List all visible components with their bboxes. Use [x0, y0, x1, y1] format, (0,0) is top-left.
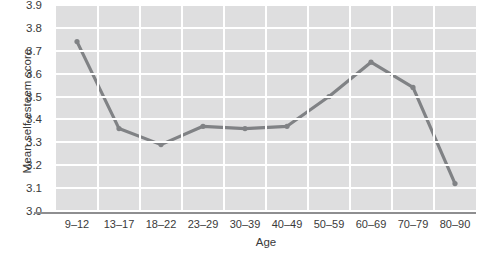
y-tick-label: 3.0: [26, 205, 54, 217]
data-point-marker: [284, 124, 289, 129]
line-chart-figure: Mean self-esteem score 3.03.13.23.33.43.…: [0, 0, 486, 260]
data-point-marker: [452, 181, 457, 186]
data-point-marker: [116, 126, 121, 131]
y-tick-label: 3.2: [26, 159, 54, 171]
gridline-vertical: [139, 5, 141, 211]
y-tick-label: 3.7: [26, 45, 54, 57]
y-tick-label: 3.5: [26, 91, 54, 103]
plot-area: [56, 5, 476, 211]
x-tick-label: 80–90: [440, 216, 471, 232]
x-tick-label: 70–79: [398, 216, 429, 232]
x-tick-label: 50–59: [314, 216, 345, 232]
x-tick-label: 60–69: [356, 216, 387, 232]
data-point-marker: [368, 60, 373, 65]
data-point-marker: [242, 126, 247, 131]
x-tick-label: 18–22: [146, 216, 177, 232]
gridline-vertical: [349, 5, 351, 211]
gridline-vertical: [391, 5, 393, 211]
x-tick-label: 30–39: [230, 216, 261, 232]
x-tick-label: 40–49: [272, 216, 303, 232]
gridline-vertical: [433, 5, 435, 211]
gridline-vertical: [307, 5, 309, 211]
x-axis-title: Age: [56, 234, 476, 250]
gridline-vertical: [97, 5, 99, 211]
y-axis-tick-labels: 3.03.13.23.33.43.53.63.73.83.9: [26, 0, 54, 222]
data-point-marker: [74, 39, 79, 44]
data-point-marker: [200, 124, 205, 129]
y-tick-label: 3.8: [26, 22, 54, 34]
y-tick-label: 3.1: [26, 182, 54, 194]
x-tick-label: 9–12: [65, 216, 89, 232]
gridline-vertical: [223, 5, 225, 211]
y-tick-label: 3.6: [26, 68, 54, 80]
x-axis-spine: [34, 212, 476, 214]
data-point-marker: [410, 85, 415, 90]
y-tick-label: 3.9: [26, 0, 54, 11]
y-tick-label: 3.4: [26, 113, 54, 125]
x-tick-label: 23–29: [188, 216, 219, 232]
gridline-vertical: [265, 5, 267, 211]
x-axis-tick-labels: 9–1213–1718–2223–2930–3940–4950–5960–697…: [56, 216, 476, 234]
x-tick-label: 13–17: [104, 216, 135, 232]
gridline-vertical: [181, 5, 183, 211]
y-tick-label: 3.3: [26, 136, 54, 148]
